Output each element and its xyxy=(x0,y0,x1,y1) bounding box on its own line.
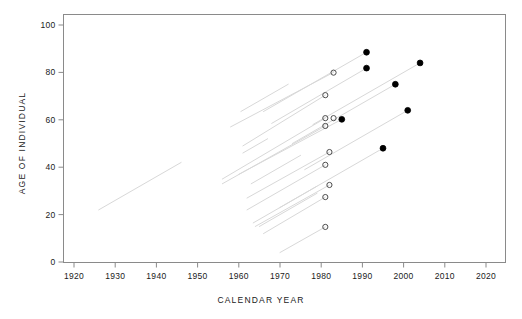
death-markers-group xyxy=(339,49,423,151)
lifeline-segment xyxy=(280,227,325,253)
x-tick-label: 1980 xyxy=(311,271,331,281)
lifeline-segment xyxy=(280,148,383,207)
x-tick-label: 1970 xyxy=(270,271,290,281)
y-tick-label: 80 xyxy=(30,67,56,77)
x-tick-label: 2000 xyxy=(394,271,414,281)
x-tick-label: 2010 xyxy=(435,271,455,281)
lexis-diagram-figure: 1920193019401950196019701980199020002010… xyxy=(0,0,522,319)
lifeline-segment xyxy=(305,110,408,169)
lifeline-segment xyxy=(247,152,329,198)
death-marker xyxy=(364,65,370,71)
y-tick-label: 40 xyxy=(30,162,56,172)
lifeline-segment xyxy=(243,139,268,153)
death-marker xyxy=(405,107,411,113)
y-axis-title: AGE OF INDIVIDUAL xyxy=(17,83,27,203)
x-tick-label: 1920 xyxy=(64,271,84,281)
lifeline-segment xyxy=(272,68,367,123)
lifelines-group xyxy=(99,52,420,252)
death-marker xyxy=(364,49,370,55)
x-axis-ticks xyxy=(74,263,486,268)
lifeline-segment xyxy=(313,63,420,125)
lifeline-segment xyxy=(264,197,326,234)
death-marker xyxy=(339,116,345,122)
y-tick-label: 100 xyxy=(30,20,56,30)
lifeline-segment xyxy=(251,155,300,183)
x-tick-label: 1990 xyxy=(352,271,372,281)
x-tick-label: 1960 xyxy=(229,271,249,281)
censored-markers-group xyxy=(323,70,336,229)
lifeline-segment xyxy=(222,126,325,184)
axis-frame xyxy=(64,15,506,263)
x-tick-label: 2020 xyxy=(476,271,496,281)
x-axis-title: CALENDAR YEAR xyxy=(217,295,304,305)
death-marker xyxy=(417,60,423,66)
death-marker xyxy=(392,81,398,87)
x-tick-label: 1950 xyxy=(188,271,208,281)
y-tick-label: 20 xyxy=(30,210,56,220)
lifeline-segment xyxy=(247,165,325,210)
y-axis-ticks xyxy=(59,25,64,262)
plot-frame-rect xyxy=(64,15,506,263)
lifeline-segment xyxy=(255,185,329,226)
lifeline-segment xyxy=(99,162,181,209)
death-marker xyxy=(380,145,386,151)
lifeline-segment xyxy=(241,84,288,111)
x-tick-label: 1930 xyxy=(105,271,125,281)
y-tick-label: 0 xyxy=(30,257,56,267)
y-tick-label: 60 xyxy=(30,115,56,125)
x-tick-label: 1940 xyxy=(146,271,166,281)
lifeline-segment xyxy=(292,84,395,143)
